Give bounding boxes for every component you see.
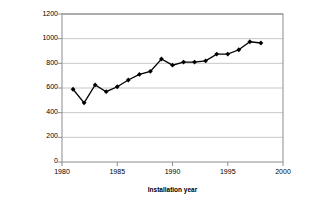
x-tick-label-1995: 1995 bbox=[208, 168, 248, 175]
data-point-1987 bbox=[137, 72, 142, 77]
data-point-1998 bbox=[259, 41, 264, 46]
x-axis-title: Installation year bbox=[62, 186, 283, 193]
x-tick-label-2000: 2000 bbox=[263, 168, 303, 175]
gridlines bbox=[62, 14, 283, 137]
data-point-1995 bbox=[225, 52, 230, 57]
x-tick-label-1990: 1990 bbox=[153, 168, 193, 175]
x-axis-ticks bbox=[62, 162, 283, 166]
series-line-productivity bbox=[73, 42, 261, 103]
y-axis-ticks bbox=[58, 14, 62, 162]
series-markers-productivity bbox=[71, 39, 264, 105]
x-tick-label-1985: 1985 bbox=[97, 168, 137, 175]
x-tick-label-1980: 1980 bbox=[42, 168, 82, 175]
chart-container: 1200 1000 800 600 400 200 0 bbox=[0, 0, 325, 202]
